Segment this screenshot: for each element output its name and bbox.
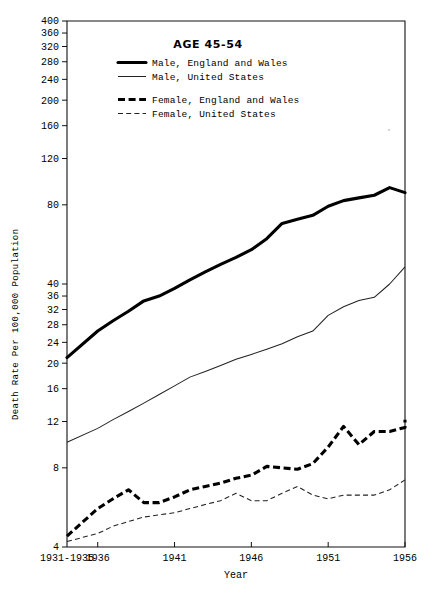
y-tick-label: 32 <box>47 305 59 316</box>
series-line <box>67 188 405 358</box>
y-axis-title-text: Death Rate Per 100,000 Population <box>11 229 21 420</box>
y-tick-label: 40 <box>47 279 59 290</box>
chart-title: AGE 45-54 <box>173 38 242 51</box>
y-axis-title: Death Rate Per 100,000 Population <box>11 229 21 420</box>
x-axis-ticks: 1931-193519361941194619511956 <box>40 542 417 564</box>
x-tick-label: 1951 <box>316 553 340 564</box>
y-axis-ticks: 4812162024283236408012016020024028032036… <box>41 16 67 553</box>
legend-label: Female, United States <box>152 109 276 120</box>
y-tick-label: 20 <box>47 359 59 370</box>
legend-label: Male, United States <box>152 72 264 83</box>
y-tick-label: 28 <box>47 320 59 331</box>
y-tick-label: 400 <box>41 16 59 27</box>
x-tick-label: 1956 <box>393 553 417 564</box>
y-tick-label: 160 <box>41 121 59 132</box>
legend-label: Male, England and Wales <box>152 58 288 69</box>
x-axis-title: Year <box>224 570 248 581</box>
y-tick-label: 320 <box>41 42 59 53</box>
series-line <box>67 420 405 536</box>
y-tick-label: 280 <box>41 57 59 68</box>
page-speck <box>388 129 390 131</box>
legend: Male, England and WalesMale, United Stat… <box>118 58 300 120</box>
y-tick-label: 240 <box>41 75 59 86</box>
legend-label: Female, England and Wales <box>152 95 300 106</box>
x-tick-label: 1936 <box>86 553 110 564</box>
y-tick-label: 12 <box>47 417 59 428</box>
death-rate-line-chart: Death Rate Per 100,000 Population 481216… <box>0 0 431 593</box>
y-tick-label: 360 <box>41 28 59 39</box>
figure-container: Death Rate Per 100,000 Population 481216… <box>0 0 431 593</box>
y-tick-label: 120 <box>41 154 59 165</box>
x-tick-label: 1946 <box>239 553 263 564</box>
series-group <box>67 188 405 542</box>
y-tick-label: 8 <box>53 463 59 474</box>
x-tick-label: 1941 <box>163 553 187 564</box>
y-tick-label: 4 <box>53 542 59 553</box>
y-tick-label: 16 <box>47 384 59 395</box>
y-tick-label: 80 <box>47 200 59 211</box>
y-tick-label: 24 <box>47 338 59 349</box>
y-tick-label: 200 <box>41 96 59 107</box>
series-line <box>67 480 405 542</box>
y-tick-label: 36 <box>47 291 59 302</box>
series-line <box>67 267 405 443</box>
